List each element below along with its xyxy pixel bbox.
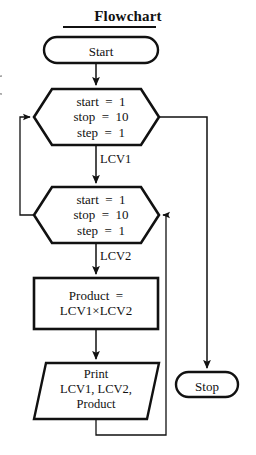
edge-label-lcv1: LCV1: [100, 152, 164, 167]
loop-outer-hexagon-label: start = 1 stop = 10 step = 1: [43, 94, 159, 140]
loop-inner-hexagon-label: start = 1 stop = 10 step = 1: [43, 192, 159, 238]
page-edge-artifact: [0, 76, 2, 94]
connector-loop-inner-back-to-loop-outer: [20, 117, 34, 215]
stop-terminator-label: Stop: [175, 379, 239, 394]
flowchart-figure: Flowchart Start start = 1 stop = 10 step…: [0, 0, 256, 455]
edge-label-lcv2: LCV2: [100, 249, 164, 264]
product-process-label: Product = LCV1×LCV2: [36, 288, 156, 319]
print-io-label: Print LCV1, LCV2, Product: [36, 367, 156, 411]
page-title: Flowchart: [0, 8, 256, 26]
start-terminator-label: Start: [43, 44, 159, 59]
